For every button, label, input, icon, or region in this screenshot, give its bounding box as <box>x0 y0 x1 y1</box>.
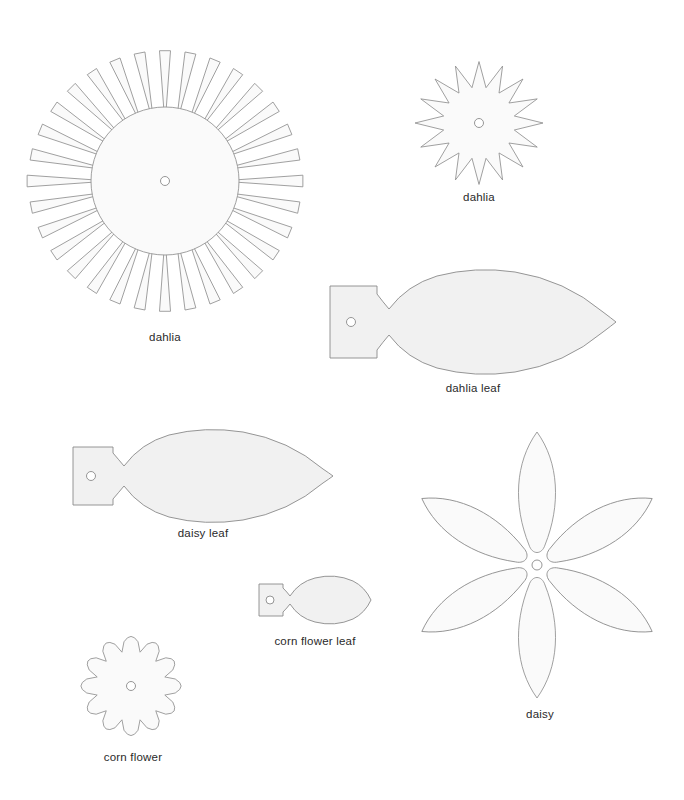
label-corn-flower: corn flower <box>71 751 195 763</box>
label-corn-flower-leaf: corn flower leaf <box>255 635 375 647</box>
template-dahlia-leaf: dahlia leaf <box>325 264 621 394</box>
label-dahlia-small: dahlia <box>399 191 559 203</box>
template-daisy: daisy <box>400 428 680 738</box>
template-dahlia-small: dahlia <box>399 43 559 223</box>
dahlia-large-figure <box>15 31 315 331</box>
dahlia-small-figure <box>399 43 559 203</box>
template-sheet: dahlia dahlia dahlia leaf daisy leaf cor… <box>0 0 684 800</box>
label-dahlia-leaf: dahlia leaf <box>325 382 621 394</box>
daisy-leaf-hole <box>87 472 96 481</box>
dahlia-large-petal <box>160 51 171 109</box>
dahlia-large-petal <box>178 251 196 310</box>
daisy-petal <box>518 432 555 553</box>
dahlia-leaf-figure <box>325 264 621 382</box>
daisy-petal <box>539 482 662 574</box>
dahlia-large-petal <box>134 251 152 310</box>
label-daisy-leaf: daisy leaf <box>67 527 339 539</box>
dahlia-leaf-hole <box>347 318 356 327</box>
dahlia-leaf-outline <box>330 270 616 375</box>
corn-flower-center-hole <box>127 682 136 691</box>
daisy-center-hole <box>532 560 542 570</box>
daisy-leaf-figure <box>67 424 339 526</box>
dahlia-large-petal <box>235 194 300 213</box>
dahlia-large-center-hole <box>161 177 170 186</box>
dahlia-large-petal <box>134 52 152 111</box>
dahlia-large-petal <box>178 52 196 111</box>
dahlia-large-petal <box>160 253 171 311</box>
template-dahlia-large: dahlia <box>15 31 315 351</box>
dahlia-large-petal <box>27 175 93 187</box>
template-corn-flower-leaf: corn flower leaf <box>255 571 375 661</box>
label-daisy: daisy <box>400 708 680 720</box>
template-daisy-leaf: daisy leaf <box>67 424 339 544</box>
template-corn-flower: corn flower <box>71 626 195 776</box>
corn-flower-leaf-hole <box>266 596 274 604</box>
dahlia-small-center-hole <box>475 119 484 128</box>
daisy-figure <box>400 428 680 708</box>
daisy-petal <box>539 555 662 647</box>
label-dahlia-large: dahlia <box>15 331 315 343</box>
corn-flower-leaf-figure <box>255 571 375 633</box>
daisy-leaf-outline <box>73 430 333 523</box>
corn-flower-figure <box>71 626 195 750</box>
dahlia-large-petal <box>235 149 300 168</box>
daisy-petal <box>413 482 536 574</box>
daisy-petal <box>518 578 555 699</box>
dahlia-large-petal <box>237 175 303 187</box>
corn-flower-leaf-outline <box>259 576 371 624</box>
dahlia-large-petal <box>30 194 95 213</box>
daisy-petal <box>413 555 536 647</box>
dahlia-large-petal <box>30 149 95 168</box>
